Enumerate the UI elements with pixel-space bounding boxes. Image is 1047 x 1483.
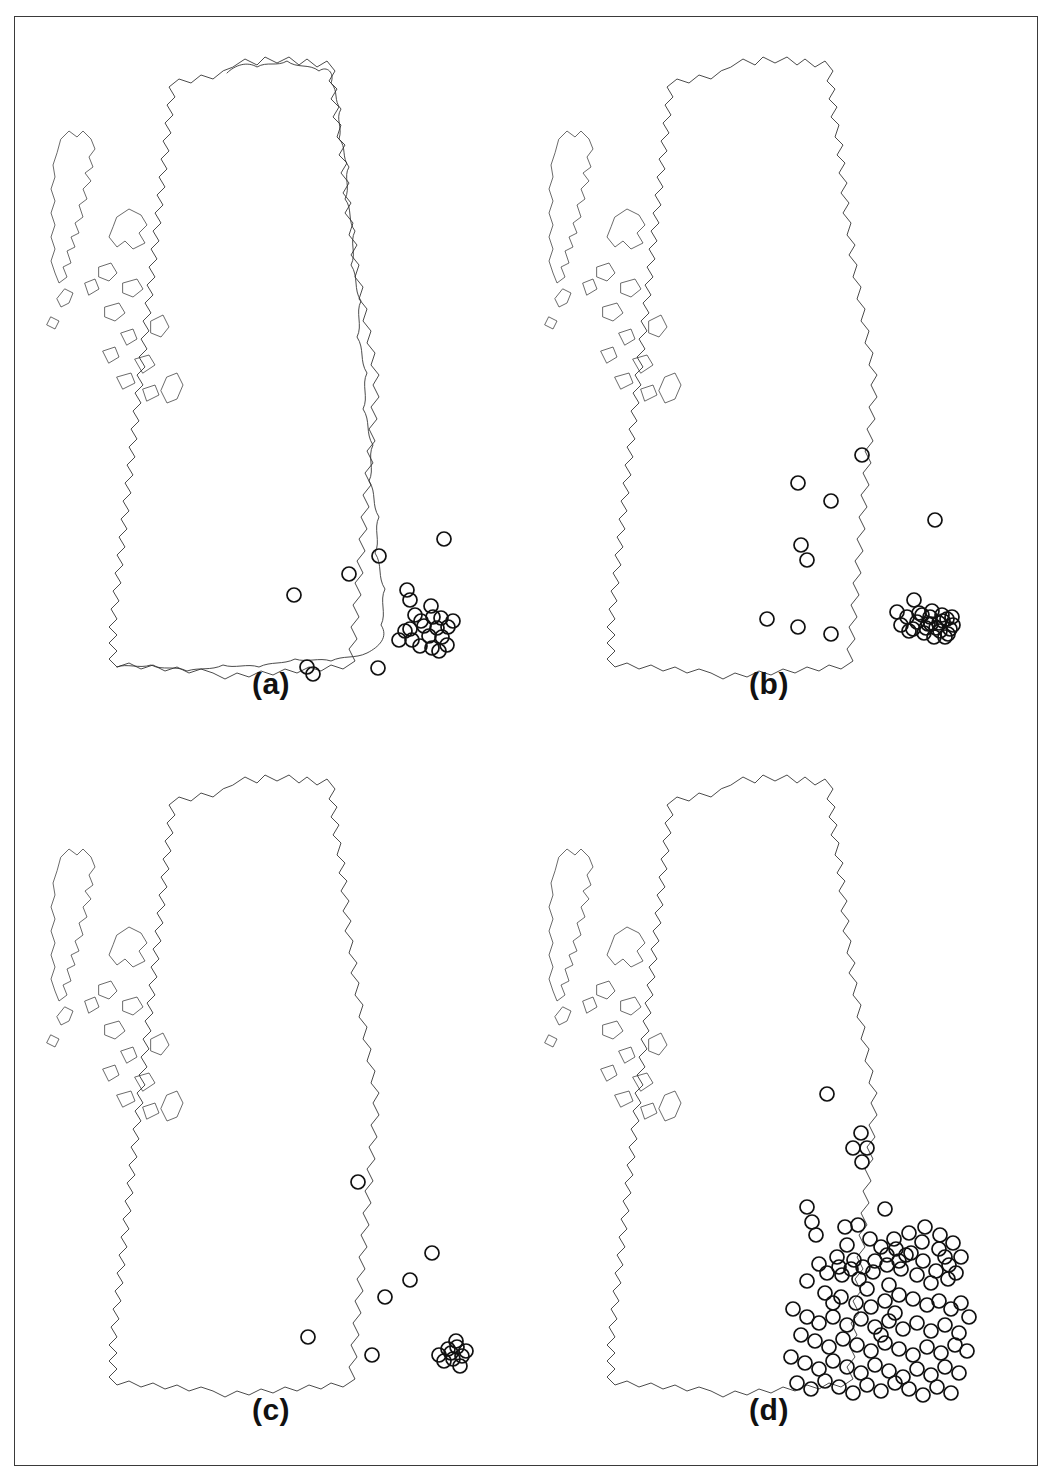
distribution-point xyxy=(800,1200,814,1214)
distribution-point xyxy=(896,1322,910,1336)
distribution-point xyxy=(946,1236,960,1250)
distribution-point xyxy=(928,513,942,527)
distribution-point xyxy=(836,1332,850,1346)
distribution-point xyxy=(798,1356,812,1370)
distribution-point xyxy=(830,1250,844,1264)
distribution-point xyxy=(930,1380,944,1394)
distribution-point xyxy=(924,1324,938,1338)
panel-b-points xyxy=(760,448,960,644)
distribution-point xyxy=(287,588,301,602)
distribution-point xyxy=(301,1330,315,1344)
distribution-point xyxy=(425,1246,439,1260)
distribution-point xyxy=(860,1378,874,1392)
distribution-point xyxy=(791,476,805,490)
panel-c: 5 (c) xyxy=(21,739,521,1459)
distribution-point xyxy=(960,1344,974,1358)
distribution-point xyxy=(372,549,386,563)
panel-c-map: 5 xyxy=(21,739,521,1407)
distribution-point xyxy=(892,1342,906,1356)
distribution-point xyxy=(808,1334,822,1348)
distribution-point xyxy=(824,627,838,641)
figure-frame: 5 (a) xyxy=(14,16,1038,1466)
distribution-point xyxy=(800,1274,814,1288)
distribution-point xyxy=(929,1264,943,1278)
distribution-point xyxy=(403,1273,417,1287)
distribution-point xyxy=(854,1312,868,1326)
distribution-point xyxy=(910,1362,924,1376)
panel-d-label: (d) xyxy=(519,1395,1019,1425)
distribution-point xyxy=(437,532,451,546)
distribution-point xyxy=(818,1374,832,1388)
distribution-point xyxy=(906,1348,920,1362)
distribution-point xyxy=(907,593,921,607)
distribution-point xyxy=(878,1294,892,1308)
distribution-point xyxy=(860,1282,874,1296)
distribution-point xyxy=(804,1382,818,1396)
panel-b: 5 (b) xyxy=(519,21,1019,741)
distribution-point xyxy=(794,538,808,552)
distribution-point xyxy=(864,1344,878,1358)
distribution-point xyxy=(790,1376,804,1390)
distribution-point xyxy=(378,1290,392,1304)
panel-a-points xyxy=(287,532,460,681)
distribution-point xyxy=(403,593,417,607)
distribution-point xyxy=(822,1340,836,1354)
distribution-point xyxy=(826,1354,840,1368)
distribution-point xyxy=(784,1350,798,1364)
distribution-point xyxy=(910,1316,924,1330)
great-britain-coastline xyxy=(545,57,877,679)
distribution-point xyxy=(860,1141,874,1155)
panel-a: 5 (a) xyxy=(21,21,521,741)
distribution-point xyxy=(878,1202,892,1216)
distribution-point xyxy=(868,1358,882,1372)
panel-c-points xyxy=(301,1175,473,1373)
distribution-point xyxy=(826,1310,840,1324)
distribution-point xyxy=(351,1175,365,1189)
distribution-point xyxy=(933,1228,947,1242)
distribution-point xyxy=(760,612,774,626)
distribution-point xyxy=(838,1220,852,1234)
distribution-point xyxy=(915,1235,929,1249)
distribution-point xyxy=(809,1228,823,1242)
distribution-point xyxy=(812,1316,826,1330)
distribution-point xyxy=(414,614,428,628)
distribution-point xyxy=(832,1380,846,1394)
distribution-point xyxy=(920,1340,934,1354)
distribution-point xyxy=(918,1220,932,1234)
distribution-point xyxy=(944,1302,958,1316)
distribution-point xyxy=(854,1126,868,1140)
distribution-point xyxy=(805,1215,819,1229)
panel-a-map: 5 xyxy=(21,21,521,689)
great-britain-coastline xyxy=(47,57,379,679)
distribution-point xyxy=(818,1286,832,1300)
panel-a-label: (a) xyxy=(21,669,521,699)
distribution-point xyxy=(902,1382,916,1396)
panel-d-map: 5 xyxy=(519,739,1019,1407)
distribution-point xyxy=(820,1087,834,1101)
distribution-point xyxy=(850,1338,864,1352)
distribution-point xyxy=(800,553,814,567)
distribution-point xyxy=(855,1155,869,1169)
great-britain-coastline xyxy=(545,775,877,1397)
distribution-point xyxy=(400,583,414,597)
distribution-point xyxy=(934,1346,948,1360)
distribution-point xyxy=(887,1232,901,1246)
distribution-point xyxy=(791,620,805,634)
distribution-point xyxy=(906,1292,920,1306)
distribution-point xyxy=(892,1288,906,1302)
panel-d: 5 (d) xyxy=(519,739,1019,1459)
panel-c-label: (c) xyxy=(21,1395,521,1425)
distribution-point xyxy=(786,1302,800,1316)
distribution-point xyxy=(794,1328,808,1342)
distribution-point xyxy=(820,1266,834,1280)
distribution-point xyxy=(851,1218,865,1232)
distribution-point xyxy=(938,1318,952,1332)
distribution-point xyxy=(365,1348,379,1362)
distribution-point xyxy=(342,567,356,581)
distribution-point xyxy=(878,1336,892,1350)
panel-b-map: 5 xyxy=(519,21,1019,689)
distribution-point xyxy=(864,1300,878,1314)
distribution-point xyxy=(954,1296,968,1310)
distribution-point xyxy=(962,1310,976,1324)
panel-d-points xyxy=(784,1087,976,1402)
